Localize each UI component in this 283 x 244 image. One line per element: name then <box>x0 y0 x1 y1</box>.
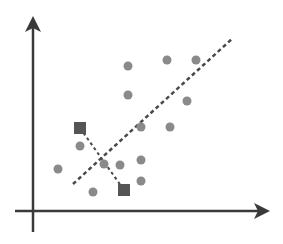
data-point <box>76 142 85 151</box>
data-point <box>166 123 175 132</box>
highlighted-square-point <box>118 184 130 196</box>
data-point <box>183 97 192 106</box>
data-point <box>137 123 146 132</box>
data-point <box>116 161 125 170</box>
highlighted-square-point <box>74 122 86 134</box>
regression-line <box>73 38 233 184</box>
data-point <box>100 160 109 169</box>
data-point <box>89 188 98 197</box>
fit-lines <box>73 38 233 190</box>
data-point <box>192 56 201 65</box>
scatter-diagram <box>0 0 283 244</box>
data-point <box>124 91 133 100</box>
diagram-canvas <box>0 0 283 244</box>
connector-line <box>80 128 124 190</box>
data-point <box>124 62 133 71</box>
data-point <box>163 56 172 65</box>
data-point <box>137 177 146 186</box>
data-point <box>54 165 63 174</box>
data-point <box>137 156 146 165</box>
